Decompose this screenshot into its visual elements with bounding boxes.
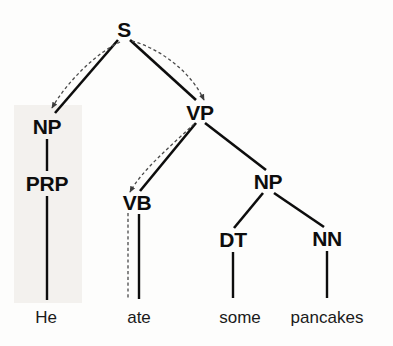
head-arrow-vp-vb (130, 124, 194, 192)
syntax-tree-figure: SNPVPPRPVBNPDTNN Heatesomepancakes (0, 0, 393, 346)
leaf-word-w-pancakes: pancakes (291, 308, 364, 328)
edge-np2-nn (274, 193, 324, 227)
node-label-nn: NN (312, 227, 342, 251)
leaf-word-w-some: some (219, 308, 261, 328)
edge-vp-np2 (205, 123, 266, 170)
edge-s-np1 (55, 40, 118, 113)
edge-np2-dt (234, 193, 263, 228)
solid-edge-group (47, 40, 327, 300)
node-label-s: S (117, 18, 131, 42)
head-arrow-s-vp (132, 41, 204, 100)
node-label-prp: PRP (26, 172, 68, 196)
head-arrow-s-np (52, 42, 120, 108)
node-label-vb: VB (123, 191, 152, 215)
node-label-dt: DT (219, 228, 246, 252)
node-label-np2: NP (254, 170, 283, 194)
node-label-np1: NP (33, 115, 62, 139)
dashed-head-arrow-group (52, 41, 204, 298)
node-label-vp: VP (186, 101, 213, 125)
edge-vp-vb (140, 123, 196, 191)
edge-s-vp (130, 40, 196, 100)
leaf-word-w-ate: ate (127, 308, 151, 328)
leaf-word-w-he: He (35, 308, 57, 328)
